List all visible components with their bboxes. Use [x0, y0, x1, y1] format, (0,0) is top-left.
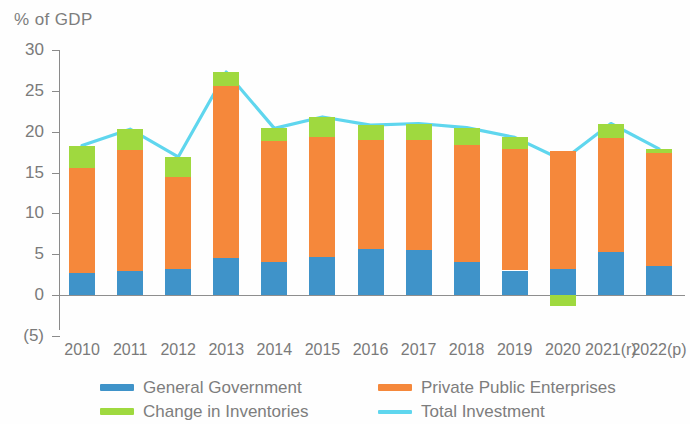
bar-segment-private-public-enterprises — [117, 150, 143, 271]
bar-segment-general-government — [69, 273, 95, 295]
bar-segment-change-in-inventories — [502, 137, 528, 148]
y-tick-mark — [52, 91, 60, 92]
bar-segment-private-public-enterprises — [358, 140, 384, 249]
bar-segment-private-public-enterprises — [165, 177, 191, 269]
bar-stack[interactable] — [213, 0, 239, 424]
bar-segment-general-government — [454, 262, 480, 295]
bar-stack[interactable] — [502, 0, 528, 424]
y-tick-mark — [52, 336, 60, 337]
bar-segment-private-public-enterprises — [598, 138, 624, 252]
bar-segment-change-in-inventories — [454, 128, 480, 145]
bar-stack[interactable] — [598, 0, 624, 424]
bar-segment-private-public-enterprises — [550, 151, 576, 269]
y-tick-label: 20 — [25, 123, 44, 140]
bar-segment-general-government — [598, 252, 624, 295]
y-tick-mark — [52, 254, 60, 255]
bar-segment-change-in-inventories — [261, 128, 287, 141]
bar-segment-change-in-inventories — [406, 124, 432, 140]
y-tick-mark — [52, 50, 60, 51]
y-tick-label: (5) — [23, 327, 44, 344]
bar-segment-general-government — [358, 249, 384, 295]
bar-segment-change-in-inventories — [309, 117, 335, 137]
y-tick-label: 15 — [25, 164, 44, 181]
bar-segment-change-in-inventories — [598, 124, 624, 139]
bar-segment-general-government — [550, 269, 576, 295]
bar-segment-private-public-enterprises — [69, 168, 95, 273]
bar-segment-change-in-inventories — [117, 129, 143, 150]
bar-segment-general-government — [406, 250, 432, 295]
bar-segment-change-in-inventories — [550, 295, 576, 306]
bar-stack[interactable] — [550, 0, 576, 424]
bar-stack[interactable] — [69, 0, 95, 424]
bar-segment-change-in-inventories — [646, 149, 672, 153]
bar-segment-private-public-enterprises — [309, 137, 335, 256]
bar-segment-change-in-inventories — [358, 125, 384, 140]
bar-stack[interactable] — [358, 0, 384, 424]
bar-segment-private-public-enterprises — [213, 86, 239, 258]
bar-segment-general-government — [309, 257, 335, 295]
y-tick-label: 25 — [25, 82, 44, 99]
bar-segment-change-in-inventories — [213, 72, 239, 86]
investment-stacked-bar-chart: % of GDP (5)051015202530 201020112012201… — [0, 0, 690, 424]
bar-segment-general-government — [646, 266, 672, 295]
bar-segment-private-public-enterprises — [406, 140, 432, 250]
y-tick-mark — [52, 213, 60, 214]
bar-segment-private-public-enterprises — [261, 141, 287, 261]
y-tick-label: 30 — [25, 41, 44, 58]
bar-stack[interactable] — [646, 0, 672, 424]
bar-segment-private-public-enterprises — [502, 149, 528, 271]
bar-stack[interactable] — [309, 0, 335, 424]
bar-stack[interactable] — [165, 0, 191, 424]
bar-segment-private-public-enterprises — [454, 145, 480, 263]
bar-segment-private-public-enterprises — [646, 153, 672, 267]
bar-stack[interactable] — [406, 0, 432, 424]
bar-segment-change-in-inventories — [165, 157, 191, 177]
y-tick-label: 10 — [25, 204, 44, 221]
bar-segment-general-government — [165, 269, 191, 295]
y-tick-mark — [52, 295, 60, 296]
bar-stack[interactable] — [117, 0, 143, 424]
bar-stack[interactable] — [454, 0, 480, 424]
bar-segment-change-in-inventories — [69, 146, 95, 169]
bar-segment-general-government — [213, 258, 239, 295]
bar-segment-general-government — [502, 271, 528, 296]
chart-legend: General GovernmentPrivate Public Enterpr… — [0, 378, 690, 424]
bar-segment-general-government — [261, 262, 287, 295]
bar-segment-general-government — [117, 271, 143, 295]
y-tick-mark — [52, 132, 60, 133]
y-tick-label: 5 — [35, 245, 44, 262]
y-tick-label: 0 — [35, 286, 44, 303]
y-tick-mark — [52, 173, 60, 174]
bar-stack[interactable] — [261, 0, 287, 424]
